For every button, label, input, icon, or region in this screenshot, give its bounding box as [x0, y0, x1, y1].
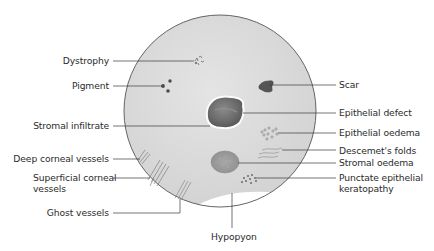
label-scar: Scar: [339, 79, 359, 90]
label-superficial-line1: Superficial corneal: [33, 172, 116, 183]
label-superficial-line2: vessels: [33, 183, 116, 194]
label-pigment: Pigment: [72, 80, 109, 91]
label-hypopyon: Hypopyon: [211, 231, 257, 242]
label-pek-line2: keratopathy: [339, 183, 423, 194]
epithelial-defect-lesion: [208, 98, 243, 128]
label-epithelial-defect: Epithelial defect: [339, 107, 412, 118]
label-dystrophy: Dystrophy: [63, 55, 109, 66]
label-ghost-vessels: Ghost vessels: [47, 207, 109, 218]
label-stromal-infiltrate: Stromal infiltrate: [33, 120, 109, 131]
label-epithelial-oedema: Epithelial oedema: [339, 127, 420, 138]
label-descemets-folds: Descemet's folds: [339, 145, 416, 156]
label-superficial-corneal-vessels: Superficial corneal vessels: [33, 172, 116, 194]
label-punctate-epithelial-keratopathy: Punctate epithelial keratopathy: [339, 172, 423, 194]
stromal-oedema-lesion: [211, 151, 239, 173]
label-deep-corneal-vessels: Deep corneal vessels: [13, 153, 109, 164]
label-pek-line1: Punctate epithelial: [339, 172, 423, 183]
label-stromal-oedema: Stromal oedema: [339, 157, 414, 168]
